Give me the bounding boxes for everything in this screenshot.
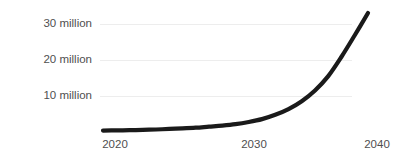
x-tick-label-2020: 2020 — [102, 138, 128, 150]
x-axis-tick-labels: 2020 2030 2040 — [102, 138, 390, 150]
y-tick-label-20-million: 20 million — [43, 53, 92, 65]
gridlines — [100, 25, 352, 97]
chart-container: 30 million 20 million 10 million 2020 20… — [0, 0, 414, 164]
y-axis-tick-labels: 30 million 20 million 10 million — [43, 17, 92, 101]
y-tick-label-30-million: 30 million — [43, 17, 92, 29]
x-tick-label-2030: 2030 — [241, 138, 267, 150]
line-chart: 30 million 20 million 10 million 2020 20… — [0, 0, 414, 164]
data-series-line — [103, 13, 368, 131]
y-tick-label-10-million: 10 million — [43, 89, 92, 101]
x-tick-label-2040: 2040 — [364, 138, 390, 150]
